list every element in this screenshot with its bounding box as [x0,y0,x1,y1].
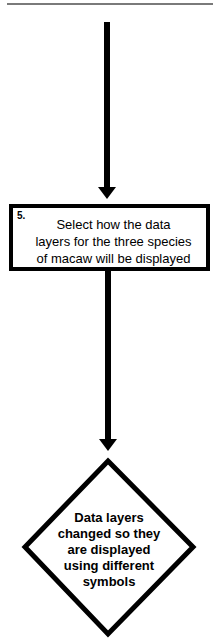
result-line-3: are displayed [34,542,184,558]
result-line-4: using different [34,558,184,574]
result-line-2: changed so they [34,526,184,542]
result-line-1: Data layers [34,510,184,526]
result-line-5: symbols [34,574,184,590]
result-description: Data layers changed so they are displaye… [34,510,184,590]
